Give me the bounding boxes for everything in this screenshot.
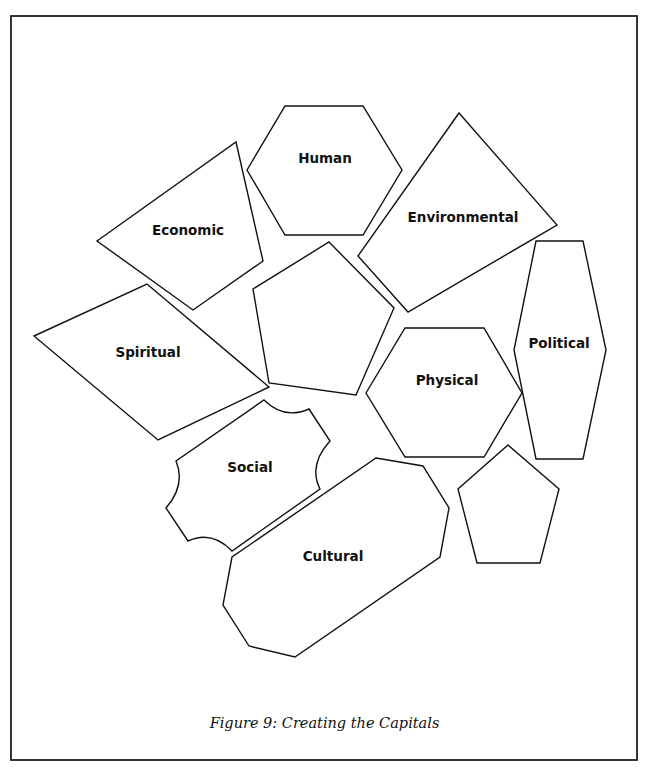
small-pentagon	[458, 445, 559, 563]
shape-spiritual: Spiritual	[34, 284, 269, 440]
shape-human: Human	[247, 106, 402, 235]
physical-label: Physical	[416, 372, 479, 388]
economic-label: Economic	[152, 222, 224, 238]
spiritual-rhombus	[34, 284, 269, 440]
spiritual-label: Spiritual	[115, 344, 180, 360]
shape-blank-pentagon-small	[458, 445, 559, 563]
political-label: Political	[528, 335, 589, 351]
cultural-label: Cultural	[303, 548, 364, 564]
environmental-label: Environmental	[408, 209, 519, 225]
social-label: Social	[227, 459, 272, 475]
human-label: Human	[298, 150, 352, 166]
shape-physical: Physical	[366, 328, 522, 457]
capitals-diagram: Economic Human Environmental Spiritual P…	[0, 0, 649, 774]
human-hexagon	[247, 106, 402, 235]
shape-economic: Economic	[97, 142, 263, 310]
figure-caption: Figure 9: Creating the Capitals	[0, 715, 649, 731]
shape-political: Political	[514, 241, 606, 459]
physical-hexagon	[366, 328, 522, 457]
